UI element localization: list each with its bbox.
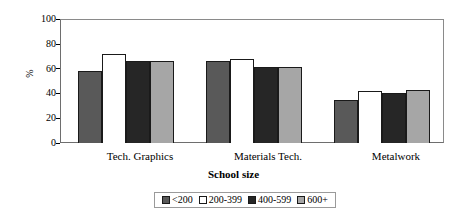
x-axis-category-labels: Tech. Graphics Materials Tech. Metalwork [60,150,444,164]
bar-materials-tech-600plus[interactable] [278,67,302,143]
legend-label: 400-599 [258,195,291,205]
bar-tech-graphics-lt200[interactable] [78,71,102,143]
bars-layer [60,19,444,143]
legend-label: 200-399 [209,195,242,205]
bar-group [206,19,302,143]
legend-swatch-icon [248,196,256,204]
chart-legend: <200 200-399 400-599 600+ [154,192,336,208]
x-axis-title: School size [0,168,467,180]
y-tick-mark [56,143,60,144]
bar-metalwork-400-599[interactable] [382,93,406,143]
bar-chart-figure: % 100 80 60 40 20 0 [0,0,467,221]
legend-swatch-icon [199,196,207,204]
legend-label: <200 [172,195,193,205]
y-tick-label: 60 [30,64,56,74]
y-tick-label: 40 [30,88,56,98]
bar-materials-tech-lt200[interactable] [206,61,230,143]
y-tick-label: 80 [30,39,56,49]
x-category-label-metalwork: Metalwork [316,150,467,163]
bar-metalwork-200-399[interactable] [358,91,382,143]
bar-tech-graphics-600plus[interactable] [150,61,174,143]
legend-item-600plus[interactable]: 600+ [297,195,328,205]
y-tick-label: 0 [30,138,56,148]
bar-materials-tech-400-599[interactable] [254,67,278,143]
bar-group [78,19,174,143]
legend-swatch-icon [297,196,305,204]
y-tick-label: 20 [30,113,56,123]
bar-tech-graphics-400-599[interactable] [126,61,150,143]
y-axis-tick-labels: 100 80 60 40 20 0 [28,0,56,221]
bar-metalwork-lt200[interactable] [334,100,358,143]
bar-materials-tech-200-399[interactable] [230,59,254,143]
legend-item-lt200[interactable]: <200 [162,195,193,205]
bar-tech-graphics-200-399[interactable] [102,54,126,143]
legend-item-400-599[interactable]: 400-599 [248,195,291,205]
y-tick-label: 100 [30,14,56,24]
legend-swatch-icon [162,196,170,204]
bar-metalwork-600plus[interactable] [406,90,430,143]
legend-item-200-399[interactable]: 200-399 [199,195,242,205]
legend-label: 600+ [307,195,328,205]
bar-group [334,19,430,143]
